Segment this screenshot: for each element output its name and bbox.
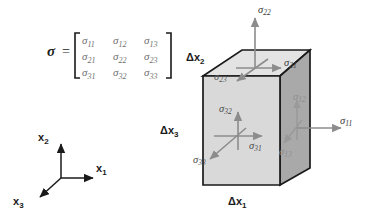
matrix-row: σ11 σ12 σ13 [82, 34, 157, 49]
matrix-row: σ31 σ32 σ33 [82, 66, 157, 81]
dimension-label-dx1: Δx1 [228, 195, 247, 210]
axis-label-x3: x3 [13, 195, 24, 210]
axis-label-x2: x2 [38, 131, 49, 146]
equals-sign: = [62, 44, 70, 59]
bracket-left-icon [75, 33, 80, 78]
stress-tensor-equation: σ = σ11 σ12 σ13 σ21 σ22 σ23 σ31 σ32 σ33 [47, 33, 171, 81]
cube-face-front [203, 76, 280, 185]
stress-tensor-figure: σ = σ11 σ12 σ13 σ21 σ22 σ23 σ31 σ32 σ33 … [0, 0, 369, 223]
matrix-cell: σ21 [82, 50, 95, 65]
matrix-cell: σ13 [144, 34, 157, 49]
bracket-right-icon [166, 33, 171, 78]
matrix-cell: σ31 [82, 66, 95, 81]
sigma-symbol: σ [47, 43, 56, 59]
matrix-row: σ21 σ22 σ23 [82, 50, 157, 65]
matrix-cell: σ32 [113, 66, 126, 81]
matrix-cell: σ23 [144, 50, 157, 65]
dimension-label-dx2: Δx2 [186, 51, 205, 66]
axis-label-x1: x1 [96, 162, 107, 177]
matrix-cell: σ22 [113, 50, 126, 65]
matrix-cell: σ33 [144, 66, 157, 81]
axis-x3-arrow-icon [40, 178, 61, 197]
stress-label-s22: σ22 [258, 4, 271, 17]
dimension-label-dx3: Δx3 [160, 124, 179, 139]
stress-label-s11: σ11 [340, 115, 352, 128]
matrix-cell: σ11 [82, 34, 95, 49]
coordinate-axes-triad: x2 x1 x3 [13, 131, 107, 210]
matrix-cell: σ12 [113, 34, 126, 49]
